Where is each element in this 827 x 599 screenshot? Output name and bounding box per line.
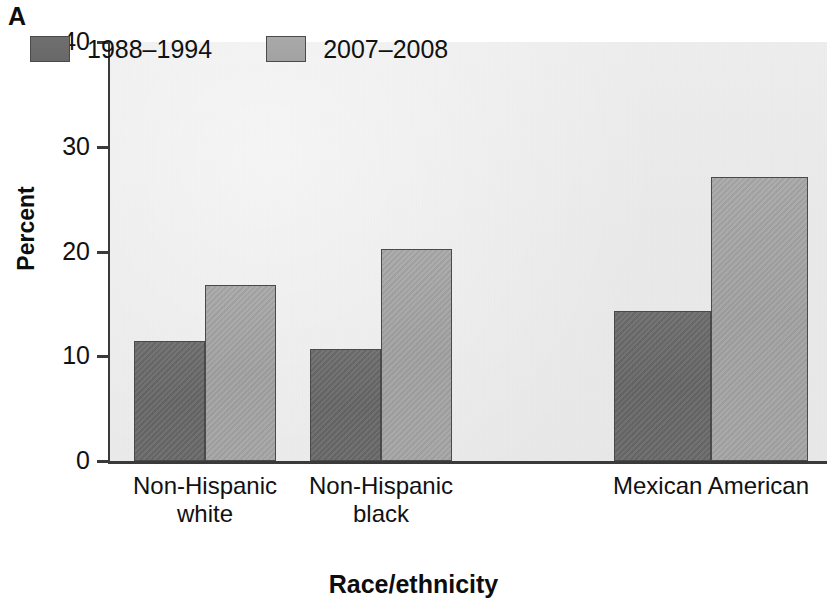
legend-label: 1988–1994	[87, 37, 212, 62]
category-label: Non-Hispanicblack	[266, 472, 496, 529]
y-tick-label: 10	[0, 343, 90, 368]
category-label-line: black	[266, 500, 496, 528]
bar	[134, 341, 205, 461]
legend-label: 2007–2008	[323, 37, 448, 62]
legend-item: 2007–2008	[266, 36, 448, 62]
y-tick-mark	[97, 355, 108, 358]
legend-swatch	[30, 36, 70, 62]
y-tick-label: 0	[0, 448, 90, 473]
y-tick-mark	[97, 251, 108, 254]
x-axis-line	[108, 461, 827, 464]
y-axis-title: Percent	[13, 159, 40, 299]
category-label: Mexican American	[591, 472, 827, 500]
bar	[310, 349, 381, 461]
y-tick-label: 20	[0, 239, 90, 264]
plot-area	[110, 42, 827, 461]
bar	[614, 311, 711, 461]
y-tick-mark	[97, 146, 108, 149]
legend-swatch	[266, 36, 306, 62]
bar	[711, 177, 808, 461]
y-tick-label: 30	[0, 134, 90, 159]
chart-legend: 1988–19942007–2008	[30, 36, 448, 62]
legend-item: 1988–1994	[30, 36, 212, 62]
y-tick-mark	[97, 460, 108, 463]
panel-letter: A	[8, 4, 26, 29]
x-axis-title: Race/ethnicity	[0, 570, 827, 599]
category-label-line: Mexican American	[591, 472, 827, 500]
bar	[381, 249, 452, 461]
bar	[205, 285, 276, 461]
category-label-line: Non-Hispanic	[266, 472, 496, 500]
